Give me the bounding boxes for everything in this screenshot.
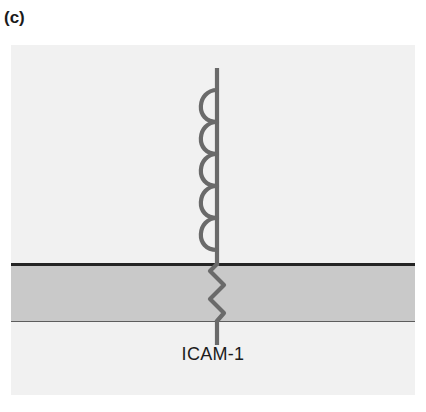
- ig-domain-loop-3: [201, 154, 217, 186]
- diagram-plate: ICAM-1: [11, 45, 415, 395]
- icam1-molecule-diagram: [11, 45, 415, 395]
- protein-label: ICAM-1: [11, 345, 415, 365]
- figure-panel-c: (c) ICAM-1: [0, 0, 426, 412]
- ig-domain-loop-2: [201, 122, 217, 154]
- ig-domain-loop-4: [201, 186, 217, 218]
- transmembrane-zigzag: [210, 264, 224, 321]
- panel-letter: (c): [4, 9, 25, 26]
- ig-domain-loop-5: [201, 218, 217, 250]
- ig-domain-loop-1: [201, 90, 217, 122]
